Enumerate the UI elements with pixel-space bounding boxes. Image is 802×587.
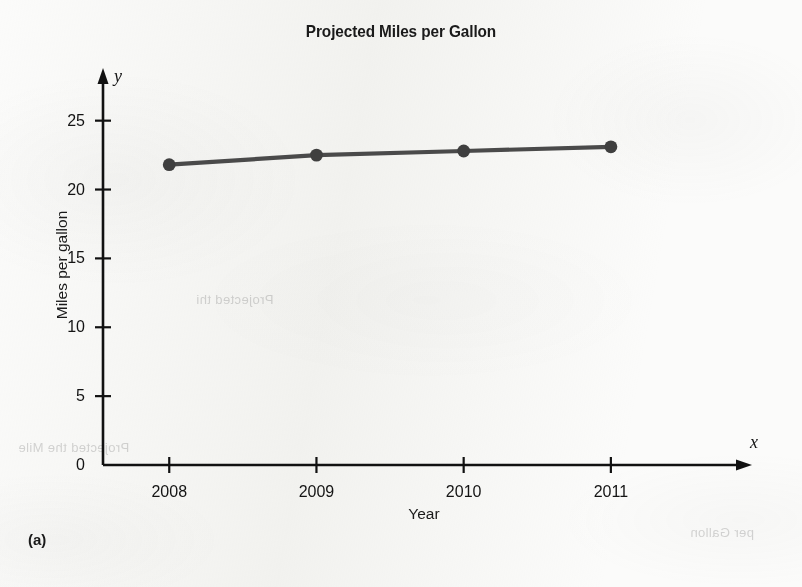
figure-canvas: Projected the MileProjected thiper Gallo…: [0, 0, 802, 587]
x-axis-variable-symbol: x: [750, 432, 758, 453]
x-axis-arrowhead: [736, 460, 752, 471]
x-tick-label: 2008: [151, 483, 187, 501]
data-point-marker: [605, 140, 618, 153]
x-tick-label: 2010: [446, 483, 482, 501]
y-tick-label: 25: [25, 112, 85, 130]
x-tick-label: 2011: [594, 483, 628, 501]
axis-lines: [98, 68, 753, 471]
y-tick-label: 5: [25, 387, 85, 405]
x-axis-title: Year: [408, 505, 439, 523]
data-point-marker: [163, 158, 176, 171]
series-markers: [163, 140, 618, 171]
data-series-group: [163, 140, 618, 171]
y-axis-variable-symbol: y: [114, 66, 122, 87]
series-line: [169, 147, 611, 165]
data-point-marker: [310, 149, 323, 162]
y-tick-label: 0: [25, 456, 85, 474]
data-point-marker: [457, 145, 470, 158]
panel-label: (a): [28, 531, 46, 548]
y-axis-title: Miles per gallon: [53, 211, 71, 320]
x-tick-label: 2009: [299, 483, 335, 501]
y-tick-label: 20: [25, 181, 85, 199]
y-axis-arrowhead: [98, 68, 109, 84]
y-tick-label: 10: [25, 318, 85, 336]
line-chart-plot: [0, 0, 802, 587]
